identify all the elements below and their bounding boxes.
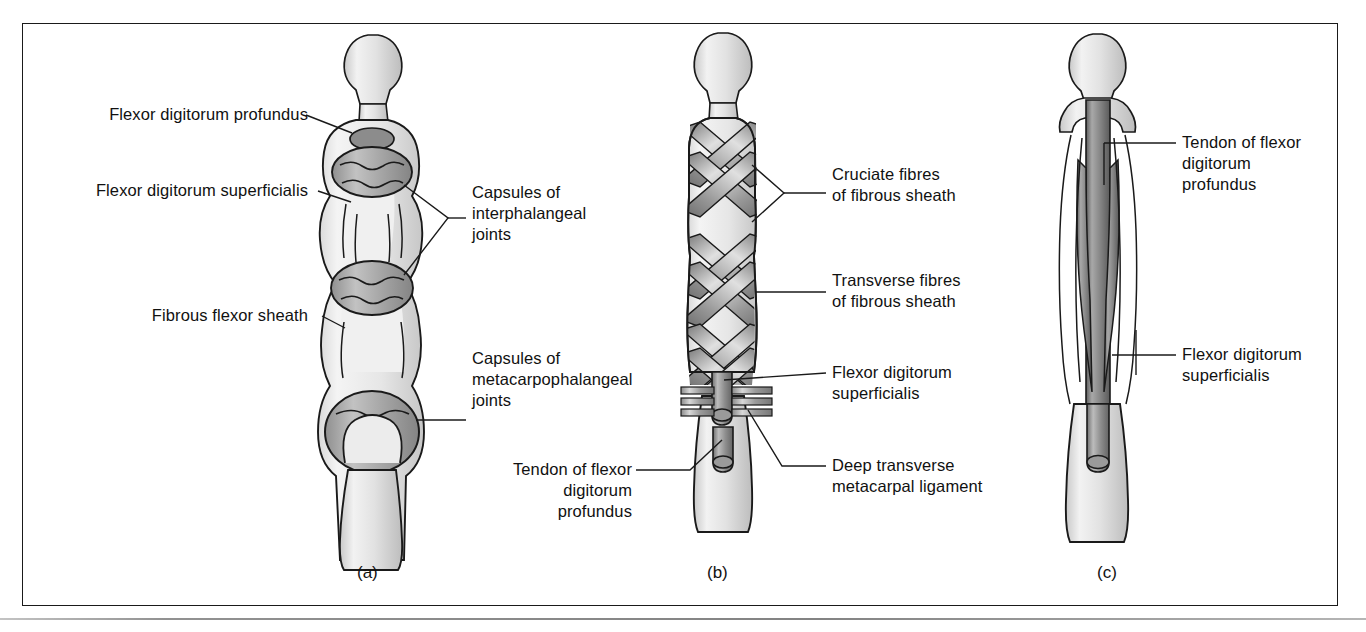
label-transverse-fibres: Transverse fibres of fibrous sheath (832, 270, 1052, 312)
label-flexor-digitorum-superficialis-c: Flexor digitorum superficialis (1182, 344, 1362, 386)
caption-panel-a: (a) (357, 563, 378, 583)
label-cruciate-fibres: Cruciate fibres of fibrous sheath (832, 164, 1052, 206)
label-capsules-metacarpophalangeal-joints: Capsules of metacarpophalangeal joints (472, 348, 732, 411)
caption-panel-c: (c) (1097, 563, 1117, 583)
caption-panel-b: (b) (707, 563, 728, 583)
label-tendon-flexor-digitorum-profundus-c: Tendon of flexor digitorum profundus (1182, 132, 1362, 195)
label-deep-transverse-metacarpal-ligament: Deep transverse metacarpal ligament (832, 455, 1082, 497)
figure-root: Flexor digitorum profundus Flexor digito… (0, 0, 1366, 632)
label-tendon-flexor-digitorum-profundus-b: Tendon of flexor digitorum profundus (436, 459, 632, 522)
label-flexor-digitorum-profundus-a: Flexor digitorum profundus (58, 104, 308, 125)
label-flexor-digitorum-superficialis-b: Flexor digitorum superficialis (832, 362, 1052, 404)
label-fibrous-flexor-sheath: Fibrous flexor sheath (92, 305, 308, 326)
bottom-rule (0, 618, 1366, 620)
label-capsules-interphalangeal-joints: Capsules of interphalangeal joints (472, 182, 702, 245)
label-flexor-digitorum-superficialis-a: Flexor digitorum superficialis (28, 180, 308, 201)
